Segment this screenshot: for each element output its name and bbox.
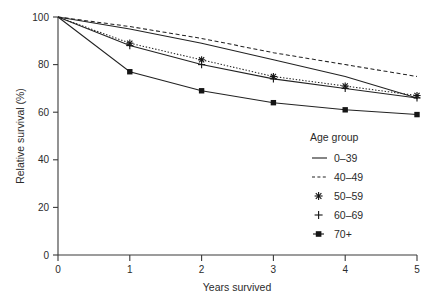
data-point-marker — [127, 69, 132, 74]
data-point-marker — [271, 100, 276, 105]
legend-label-70-plus: 70+ — [334, 228, 352, 240]
legend-item-40-49[interactable]: 40–49 — [312, 171, 363, 183]
y-axis-tick-labels: 0 20 40 60 80 100 — [32, 12, 49, 261]
legend: Age group 0–39 40–49 50–59 — [310, 131, 363, 240]
legend-item-60-69[interactable]: 60–69 — [315, 209, 364, 221]
x-axis-ticks — [58, 255, 417, 261]
y-axis-ticks — [53, 17, 58, 255]
legend-label-60-69: 60–69 — [334, 209, 363, 221]
marker-plus-icon — [315, 211, 323, 219]
x-tick-label-3: 3 — [271, 264, 277, 275]
x-tick-label-4: 4 — [342, 264, 348, 275]
legend-title: Age group — [310, 131, 359, 143]
x-axis: 0 1 2 3 4 5 Years survived — [55, 255, 420, 293]
y-tick-label-0: 0 — [43, 250, 49, 261]
y-axis-title: Relative survival (%) — [14, 88, 26, 184]
x-axis-tick-labels: 0 1 2 3 4 5 — [55, 264, 420, 275]
legend-label-50-59: 50–59 — [334, 190, 363, 202]
relative-survival-line-chart: 0 20 40 60 80 100 Relative survival (%) … — [0, 0, 444, 301]
y-axis: 0 20 40 60 80 100 Relative survival (%) — [14, 12, 58, 261]
x-tick-label-5: 5 — [414, 264, 420, 275]
series-layer — [58, 17, 421, 117]
marker-star-icon — [315, 192, 323, 200]
legend-label-0-39: 0–39 — [334, 152, 358, 164]
legend-item-70-plus[interactable]: 70+ — [313, 228, 352, 240]
x-tick-label-2: 2 — [199, 264, 205, 275]
data-point-marker — [414, 112, 419, 117]
y-tick-label-20: 20 — [38, 202, 50, 213]
series-line — [58, 17, 417, 96]
y-tick-label-40: 40 — [38, 154, 50, 165]
legend-item-50-59[interactable]: 50–59 — [315, 190, 364, 202]
data-point-marker — [199, 88, 204, 93]
legend-label-40-49: 40–49 — [334, 171, 363, 183]
y-tick-label-80: 80 — [38, 59, 50, 70]
survival-chart-figure: 0 20 40 60 80 100 Relative survival (%) … — [0, 0, 444, 301]
x-tick-label-1: 1 — [127, 264, 133, 275]
marker-square-icon — [313, 231, 324, 237]
series-70- — [58, 17, 420, 117]
series-line — [58, 17, 417, 115]
y-tick-label-60: 60 — [38, 107, 50, 118]
y-tick-label-100: 100 — [32, 12, 49, 23]
legend-item-0-39[interactable]: 0–39 — [312, 152, 358, 164]
data-point-marker — [343, 107, 348, 112]
x-tick-label-0: 0 — [55, 264, 61, 275]
x-axis-title: Years survived — [203, 281, 272, 293]
